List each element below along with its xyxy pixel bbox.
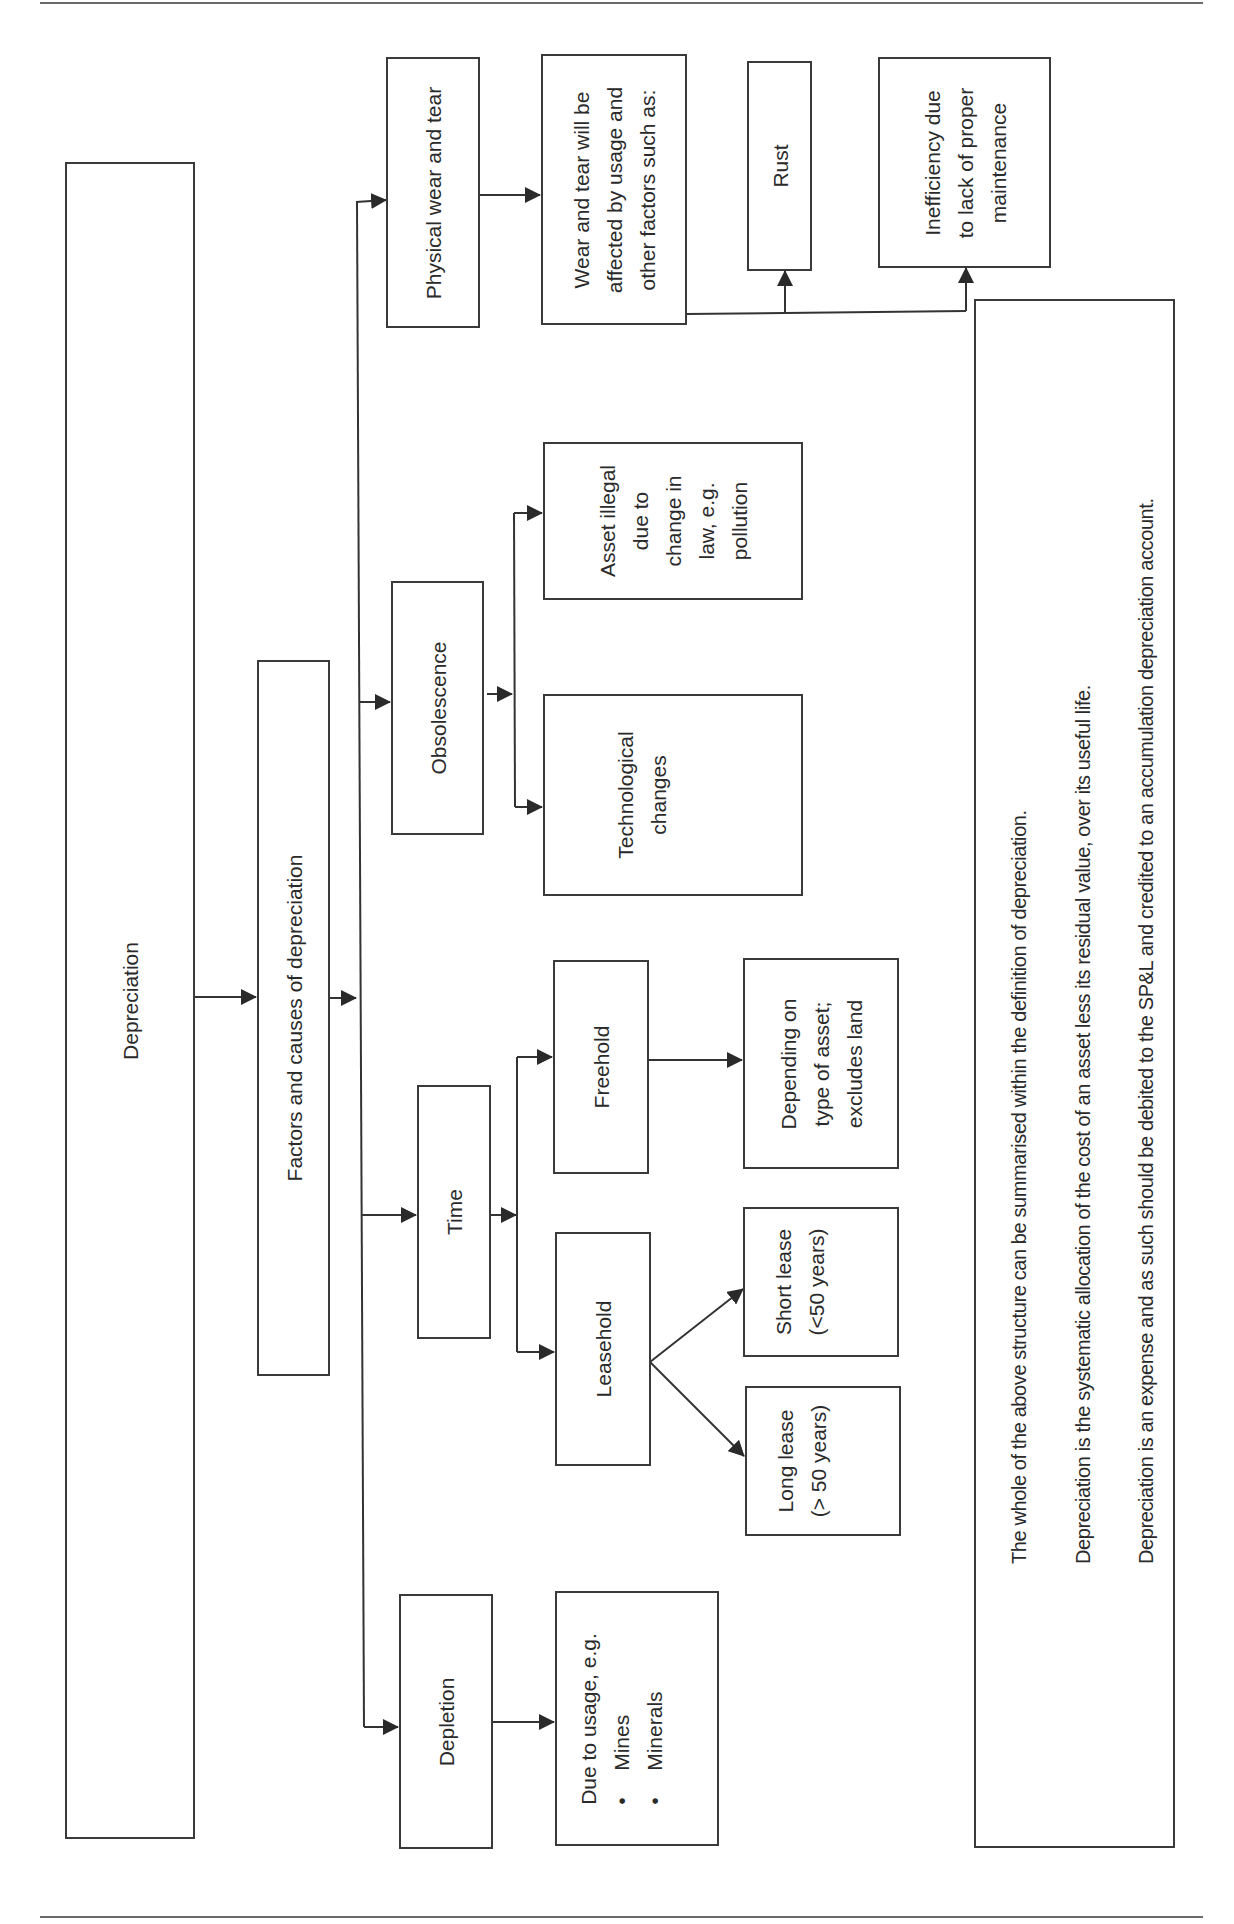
freehold-detail-box: Depending on type of asset; excludes lan…	[743, 958, 899, 1169]
technological-line-2: changes	[642, 731, 675, 858]
asset-illegal-box: Asset illegal due to change in law, e.g.…	[543, 442, 803, 600]
rust-box: Rust	[747, 61, 812, 271]
page: Depreciation Factors and causes of depre…	[0, 0, 1234, 1924]
long-lease-line-1: Long lease	[769, 1405, 802, 1518]
depletion-box: Depletion	[399, 1594, 493, 1849]
inefficiency-line-1: Inefficiency due	[915, 87, 948, 238]
depletion-bullet-mines: Mines	[605, 1633, 638, 1805]
physical-wear-label: Physical wear and tear	[417, 86, 450, 298]
long-lease-line-2: (> 50 years)	[802, 1405, 835, 1518]
asset-illegal-line-1: Asset illegal	[591, 465, 624, 577]
freehold-label: Freehold	[585, 1026, 618, 1109]
technological-line-1: Technological	[609, 731, 642, 858]
wear-detail-line-2: affected by usage and	[598, 86, 631, 292]
summary-line-3: Depreciation is an expense and as such s…	[1134, 498, 1158, 1564]
time-box: Time	[417, 1085, 491, 1339]
rust-label: Rust	[763, 144, 796, 187]
asset-illegal-line-4: law, e.g.	[690, 465, 723, 577]
technological-changes-box: Technological changes	[543, 694, 803, 896]
depletion-bullet-minerals: Minerals	[638, 1633, 671, 1805]
freehold-box: Freehold	[553, 960, 649, 1174]
physical-wear-box: Physical wear and tear	[386, 57, 480, 328]
inefficiency-box: Inefficiency due to lack of proper maint…	[878, 57, 1051, 268]
depletion-label: Depletion	[430, 1677, 463, 1766]
inefficiency-line-2: to lack of proper	[948, 87, 981, 238]
summary-line-2: Depreciation is the systematic allocatio…	[1071, 685, 1095, 1564]
freehold-detail-line-2: type of asset;	[805, 998, 838, 1129]
leasehold-box: Leasehold	[555, 1232, 651, 1466]
top-rule	[40, 2, 1203, 4]
wear-detail-line-1: Wear and tear will be	[565, 86, 598, 292]
bottom-rule	[40, 1916, 1203, 1918]
obsolescence-box: Obsolescence	[391, 581, 484, 835]
asset-illegal-line-5: pollution	[723, 465, 756, 577]
wear-detail-line-3: other factors such as:	[631, 86, 664, 292]
short-lease-box: Short lease (<50 years)	[743, 1207, 899, 1357]
leasehold-label: Leasehold	[587, 1301, 620, 1398]
long-lease-box: Long lease (> 50 years)	[745, 1386, 901, 1536]
asset-illegal-line-3: change in	[657, 465, 690, 577]
factors-label: Factors and causes of depreciation	[277, 855, 310, 1182]
inefficiency-line-3: maintenance	[981, 87, 1014, 238]
factors-box: Factors and causes of depreciation	[257, 660, 330, 1376]
depletion-detail-intro: Due to usage, e.g.	[572, 1633, 605, 1805]
asset-illegal-line-2: due to	[624, 465, 657, 577]
depreciation-root-label: Depreciation	[114, 942, 147, 1060]
obsolescence-label: Obsolescence	[421, 641, 454, 774]
short-lease-line-2: (<50 years)	[800, 1229, 833, 1336]
freehold-detail-line-3: excludes land	[838, 998, 871, 1129]
freehold-detail-line-1: Depending on	[772, 998, 805, 1129]
depletion-detail-box: Due to usage, e.g. Mines Minerals	[555, 1591, 719, 1846]
wear-detail-box: Wear and tear will be affected by usage …	[541, 54, 687, 325]
short-lease-line-1: Short lease	[767, 1229, 800, 1336]
depreciation-root-box: Depreciation	[65, 162, 195, 1839]
summary-line-1: The whole of the above structure can be …	[1007, 810, 1031, 1564]
time-label: Time	[438, 1189, 471, 1235]
